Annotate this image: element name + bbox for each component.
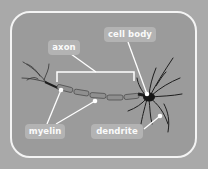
label-myelin: myelin xyxy=(25,124,65,139)
axon-terminal xyxy=(22,62,49,82)
axon-core xyxy=(45,82,58,88)
neuron-illustration xyxy=(0,0,208,169)
label-cell-body: cell body xyxy=(104,27,156,42)
axon-bracket xyxy=(57,72,134,82)
myelin-sheath xyxy=(57,84,140,100)
label-dendrite: dendrite xyxy=(91,124,143,139)
label-axon: axon xyxy=(48,40,80,55)
